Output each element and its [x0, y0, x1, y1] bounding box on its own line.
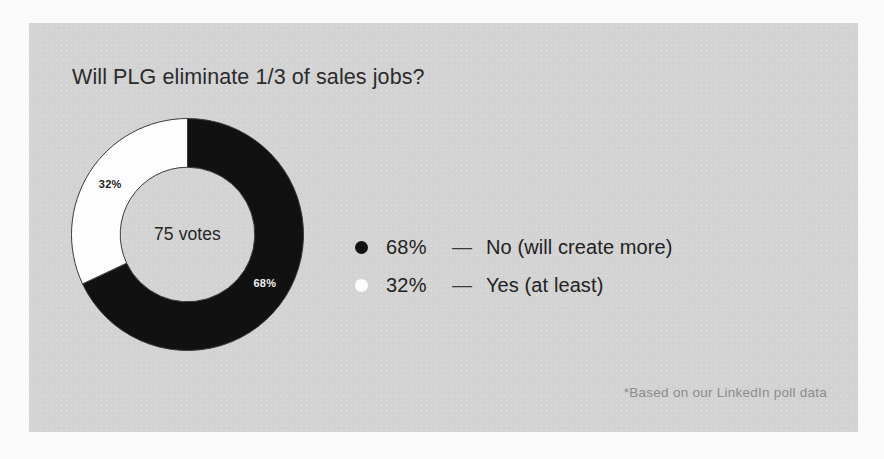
poll-result-card: Will PLG eliminate 1/3 of sales jobs? 68… [29, 23, 858, 432]
donut-chart-svg: 68% 32% [70, 117, 305, 352]
donut-chart: 68% 32% 75 votes [70, 117, 305, 352]
legend-swatch-yes-icon [355, 279, 368, 292]
chart-legend: 68% — No (will create more) 32% — Yes (a… [355, 228, 673, 304]
legend-percent-yes: 32% [386, 274, 448, 297]
legend-row-no[interactable]: 68% — No (will create more) [355, 228, 673, 266]
legend-dash-no: — [452, 236, 472, 259]
legend-swatch-no-icon [355, 241, 368, 254]
donut-slice-yes[interactable] [71, 119, 187, 284]
legend-dash-yes: — [452, 274, 472, 297]
source-footnote: *Based on our LinkedIn poll data [624, 385, 827, 400]
page-title: Will PLG eliminate 1/3 of sales jobs? [72, 65, 425, 90]
donut-slice-label-yes: 32% [99, 178, 122, 190]
donut-slice-label-no: 68% [254, 277, 277, 289]
legend-label-no: No (will create more) [486, 236, 673, 259]
legend-row-yes[interactable]: 32% — Yes (at least) [355, 266, 673, 304]
legend-percent-no: 68% [386, 236, 448, 259]
legend-label-yes: Yes (at least) [486, 274, 603, 297]
